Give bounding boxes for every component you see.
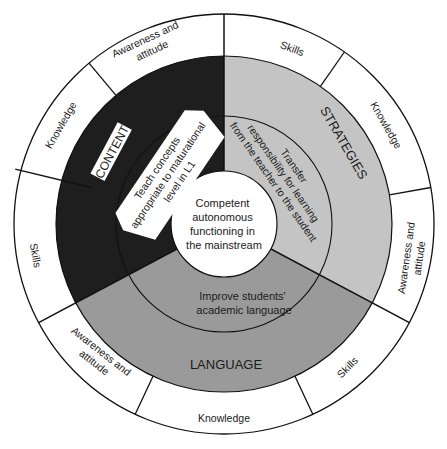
language-title: LANGUAGE	[190, 357, 263, 372]
concentric-circle-diagram: Competent autonomous functioning in the …	[0, 0, 447, 449]
ring-label-language-knowledge: Knowledge	[198, 412, 250, 424]
diagram-canvas: Competent autonomous functioning in the …	[0, 0, 447, 449]
